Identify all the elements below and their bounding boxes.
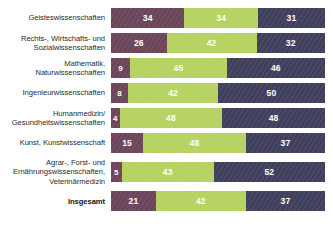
category-label: Humanmedizin/ Gesundheitswissenschaften <box>0 109 111 128</box>
category-label: Geisteswissenschaften <box>0 13 111 22</box>
category-label: Insgesamt <box>0 197 111 206</box>
bar-row: Rechts-, Wirtschafts- und Sozialwissensc… <box>0 33 325 53</box>
bar-segment: 48 <box>222 108 325 128</box>
segment-value-label: 43 <box>163 167 173 177</box>
bar-segment: 15 <box>111 133 143 153</box>
segment-value-label: 52 <box>264 167 274 177</box>
bar-row: Geisteswissenschaften343431 <box>0 8 325 28</box>
segment-value-label: 8 <box>117 89 122 98</box>
stacked-bar: 84250 <box>111 83 325 103</box>
stacked-bar: 44848 <box>111 108 325 128</box>
bar-segment: 9 <box>111 58 130 78</box>
segment-value-label: 9 <box>118 64 123 73</box>
category-label: Kunst, Kunstwissenschaft <box>0 138 111 147</box>
segment-value-label: 5 <box>114 168 119 177</box>
segment-value-label: 21 <box>129 196 139 206</box>
segment-value-label: 48 <box>166 113 176 123</box>
stacked-bar: 94546 <box>111 58 325 78</box>
bar-segment: 48 <box>120 108 223 128</box>
segment-value-label: 37 <box>281 138 291 148</box>
segment-value-label: 32 <box>286 38 296 48</box>
bar-row: Agrar-, Forst- und Ernährungswissenschaf… <box>0 158 325 186</box>
bar-segment: 43 <box>122 162 214 182</box>
stacked-bar: 54352 <box>111 162 325 182</box>
bar-row: Humanmedizin/ Gesundheitswissenschaften4… <box>0 108 325 128</box>
segment-value-label: 42 <box>207 38 217 48</box>
bar-segment: 37 <box>246 191 325 211</box>
bar-segment: 5 <box>111 162 122 182</box>
segment-value-label: 46 <box>271 63 281 73</box>
segment-value-label: 37 <box>281 196 291 206</box>
bar-segment: 52 <box>214 162 325 182</box>
bar-segment: 21 <box>111 191 156 211</box>
bar-segment: 46 <box>227 58 325 78</box>
bar-segment: 45 <box>130 58 226 78</box>
stacked-bar: 154837 <box>111 133 325 153</box>
stacked-bar: 343431 <box>111 8 325 28</box>
bar-segment: 31 <box>258 8 325 28</box>
bar-row: Kunst, Kunstwissenschaft154837 <box>0 133 325 153</box>
bar-row: Ingenieurwissenschaften84250 <box>0 83 325 103</box>
bar-row: Mathematik, Naturwissenschaften94546 <box>0 58 325 78</box>
bar-segment: 34 <box>111 8 184 28</box>
bar-segment: 34 <box>184 8 257 28</box>
bar-segment: 42 <box>128 83 218 103</box>
category-label: Rechts-, Wirtschafts- und Sozialwissensc… <box>0 34 111 53</box>
segment-value-label: 34 <box>143 13 153 23</box>
segment-value-label: 26 <box>134 38 144 48</box>
category-label: Ingenieurwissenschaften <box>0 88 111 97</box>
stacked-bar: 264232 <box>111 33 325 53</box>
segment-value-label: 42 <box>168 88 178 98</box>
segment-value-label: 48 <box>190 138 200 148</box>
category-label: Agrar-, Forst- und Ernährungswissenschaf… <box>0 158 111 186</box>
bar-segment: 48 <box>143 133 246 153</box>
bar-segment: 8 <box>111 83 128 103</box>
bar-segment: 42 <box>156 191 246 211</box>
segment-value-label: 31 <box>287 13 297 23</box>
category-label: Mathematik, Naturwissenschaften <box>0 59 111 78</box>
segment-value-label: 50 <box>267 88 277 98</box>
stacked-bar: 214237 <box>111 191 325 211</box>
segment-value-label: 4 <box>113 114 118 123</box>
segment-value-label: 34 <box>216 13 226 23</box>
segment-value-label: 45 <box>174 63 184 73</box>
segment-value-label: 42 <box>196 196 206 206</box>
bar-segment: 4 <box>111 108 120 128</box>
segment-value-label: 15 <box>122 138 132 148</box>
bar-segment: 26 <box>111 33 167 53</box>
bar-row: Insgesamt214237 <box>0 191 325 211</box>
bar-segment: 32 <box>257 33 325 53</box>
bar-segment: 37 <box>246 133 325 153</box>
segment-value-label: 48 <box>269 113 279 123</box>
bar-segment: 50 <box>218 83 325 103</box>
stacked-bar-chart: Geisteswissenschaften343431Rechts-, Wirt… <box>0 0 333 250</box>
bar-segment: 42 <box>167 33 257 53</box>
